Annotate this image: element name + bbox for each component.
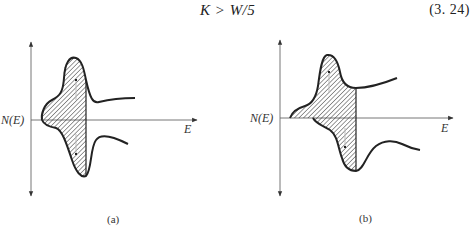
figure-canvas: N(E) E (a) N(E) E (b) [0,0,474,229]
figure-b-y-axis-label: N(E) [249,111,273,125]
figure-b: N(E) E (b) [249,40,453,225]
figure-a-upper-filled-band [41,58,86,120]
figure-b-down-dot [344,146,346,148]
figure-a: N(E) E (a) [0,42,197,226]
figure-b-x-axis-label: E [440,121,449,135]
figure-a-y-axis-label: N(E) [0,113,24,127]
figure-a-x-axis-label: E [183,122,192,136]
figure-b-lower-filled-band [313,118,356,171]
figure-a-up-dot [75,79,77,81]
figure-b-caption: (b) [359,212,372,225]
figure-a-down-dot [75,153,77,155]
figure-b-up-dot [328,71,330,73]
figure-a-lower-filled-band [42,120,86,177]
figure-a-caption: (a) [107,213,120,226]
